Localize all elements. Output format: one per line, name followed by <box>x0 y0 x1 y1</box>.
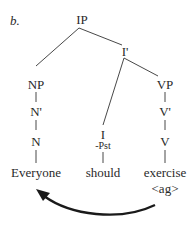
node-n: N <box>31 135 40 148</box>
branch-ibar-vp <box>124 58 158 76</box>
branch-ip-np <box>36 28 79 66</box>
node-i-bar: I' <box>122 45 129 58</box>
node-v-bar: V' <box>159 105 171 118</box>
word-exercise: exercise <box>144 166 187 179</box>
movement-arrow <box>44 196 155 215</box>
node-v: V <box>160 135 169 148</box>
branch-ip-ibar <box>79 28 122 45</box>
example-label: b. <box>10 13 20 29</box>
node-n-bar: N' <box>30 105 42 118</box>
word-annotation-ag: <ag> <box>152 182 179 195</box>
node-i-feature: -Pst <box>95 141 111 151</box>
word-should: should <box>86 166 121 179</box>
branch-ibar-i <box>103 58 124 125</box>
node-np: NP <box>28 78 45 91</box>
node-ip: IP <box>76 13 88 26</box>
word-everyone: Everyone <box>11 166 61 179</box>
node-vp: VP <box>157 78 174 91</box>
